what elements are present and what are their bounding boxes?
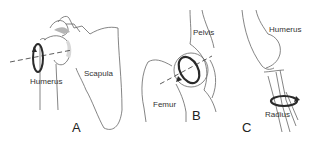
label-scapula: Scapula	[84, 69, 113, 78]
axis-line-a	[10, 50, 72, 62]
label-pelvis: Pelvis	[193, 28, 214, 37]
label-femur: Femur	[153, 100, 176, 109]
joint-rotation-figure: Humerus Scapula A Pelvis Femur B Humerus…	[0, 0, 320, 141]
figure-drawing	[0, 0, 320, 141]
label-humerus-c: Humerus	[269, 25, 301, 34]
label-radius: Radius	[265, 110, 290, 119]
panel-letter-b: B	[192, 108, 201, 123]
panel-letter-a: A	[72, 120, 81, 135]
label-humerus-a: Humerus	[30, 77, 62, 86]
panel-letter-c: C	[242, 120, 251, 135]
